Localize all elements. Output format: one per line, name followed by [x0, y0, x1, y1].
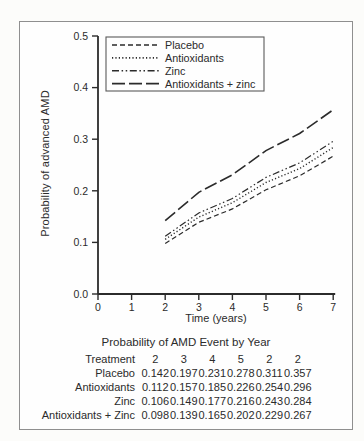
amd-chart: 0.00.10.20.30.40.501234567PlaceboAntioxi…: [20, 22, 352, 330]
table-cell: 0.197: [170, 367, 199, 381]
y-tick-label: 0.2: [73, 185, 88, 197]
table-cell: 0.278: [227, 367, 256, 381]
table-header-year: 2: [255, 353, 284, 367]
table-cell: 0.254: [255, 381, 284, 395]
x-tick-label: 6: [297, 301, 303, 313]
table-cell: 0.243: [255, 395, 284, 409]
table-cell: 0.165: [198, 409, 227, 423]
table-cell: 0.216: [227, 395, 256, 409]
series-line-long-dash: [165, 110, 333, 221]
table-title: Probability of AMD Event by Year: [20, 336, 352, 348]
series-line-dotted: [165, 148, 333, 240]
amd-chart-svg: 0.00.10.20.30.40.501234567PlaceboAntioxi…: [20, 22, 354, 330]
legend-label: Zinc: [165, 65, 186, 77]
y-axis-label: Probability of advanced AMD: [39, 84, 54, 244]
table-row-label: Zinc: [33, 395, 141, 409]
y-tick-label: 0.1: [73, 236, 88, 248]
table-header-label: Treatment: [33, 353, 141, 367]
table-cell: 0.112: [141, 381, 170, 395]
table-cell: 0.231: [198, 367, 227, 381]
y-tick-label: 0.5: [73, 30, 88, 42]
table-cell: 0.229: [255, 409, 284, 423]
table-cell: 0.177: [198, 395, 227, 409]
series-line-short-dash: [165, 156, 333, 243]
table-cell: 0.142: [141, 367, 170, 381]
table-cell: 0.267: [284, 409, 313, 423]
figure-frame: 0.00.10.20.30.40.501234567PlaceboAntioxi…: [19, 21, 353, 430]
table-cell: 0.106: [141, 395, 170, 409]
series-line-dash-dot: [165, 141, 333, 236]
legend-label: Placebo: [165, 39, 204, 51]
table-cell: 0.157: [170, 381, 199, 395]
table-cell: 0.202: [227, 409, 256, 423]
table-cell: 0.284: [284, 395, 313, 409]
x-tick-label: 1: [129, 301, 135, 313]
table-header-year: 2: [141, 353, 170, 367]
table-header-year: 3: [170, 353, 199, 367]
table-cell: 0.311: [255, 367, 284, 381]
table-cell: 0.139: [170, 409, 199, 423]
x-tick-label: 7: [330, 301, 336, 313]
table-cell: 0.185: [198, 381, 227, 395]
legend-label: Antioxidants + zinc: [165, 78, 256, 90]
y-tick-label: 0.4: [73, 81, 88, 93]
probability-table: Treatment234522Placebo0.1420.1970.2310.2…: [33, 353, 352, 423]
table-header-year: 5: [227, 353, 256, 367]
x-axis-label: Time (years): [136, 312, 296, 324]
table-row-label: Antioxidants + Zinc: [33, 409, 141, 423]
y-tick-label: 0.0: [73, 288, 88, 300]
table-cell: 0.357: [284, 367, 313, 381]
table-cell: 0.149: [170, 395, 199, 409]
table-cell: 0.098: [141, 409, 170, 423]
table-cell: 0.296: [284, 381, 313, 395]
table-cell: 0.226: [227, 381, 256, 395]
legend-label: Antioxidants: [165, 52, 224, 64]
table-header-year: 2: [284, 353, 313, 367]
table-row-label: Placebo: [33, 367, 141, 381]
x-tick-label: 0: [95, 301, 101, 313]
table-header-year: 4: [198, 353, 227, 367]
table-row-label: Antioxidants: [33, 381, 141, 395]
y-tick-label: 0.3: [73, 133, 88, 145]
probability-table-block: Probability of AMD Event by Year Treatme…: [20, 336, 352, 423]
